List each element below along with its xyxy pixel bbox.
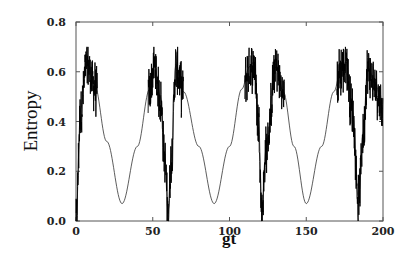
noisy-bursts xyxy=(76,47,383,221)
x-tick-label: 50 xyxy=(145,225,161,238)
y-axis: 0.00.20.40.60.8 xyxy=(47,16,383,228)
x-tick-label: 200 xyxy=(372,225,395,238)
y-axis-title: Entropy xyxy=(20,90,41,152)
x-tick-label: 150 xyxy=(295,225,318,238)
y-tick-label: 0.8 xyxy=(47,16,66,29)
plot-frame xyxy=(76,22,383,221)
plot-border xyxy=(76,22,383,221)
y-tick-label: 0.2 xyxy=(47,165,66,178)
y-tick-label: 0.6 xyxy=(47,66,66,79)
y-tick-label: 0.0 xyxy=(47,215,66,228)
entropy-chart: 0.00.20.40.60.8 050100150200 gt Entropy xyxy=(0,0,412,257)
x-axis-title: gt xyxy=(222,229,237,248)
x-tick-label: 0 xyxy=(72,225,80,238)
y-tick-label: 0.4 xyxy=(47,116,66,129)
entropy-series xyxy=(76,47,383,221)
